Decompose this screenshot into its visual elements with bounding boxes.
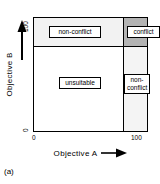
label-non-conflict-right-line1: non- — [130, 76, 143, 83]
plot-area: non-conflict conflict unsuitable non- co… — [33, 17, 148, 132]
arrow-right-icon — [101, 144, 127, 162]
y-axis-tick-max: 100 — [22, 21, 29, 32]
y-axis-title-container: Objective B — [2, 17, 16, 132]
label-box-unsuitable: unsuitable — [59, 77, 101, 89]
horizontal-divider-line — [34, 46, 147, 47]
label-box-non-conflict-right: non- conflict — [124, 74, 150, 94]
y-axis-title: Objective B — [5, 52, 14, 96]
label-non-conflict-right-line2: conflict — [127, 84, 147, 91]
x-axis-title: Objective A — [54, 149, 98, 158]
x-axis-tick-max: 100 — [131, 134, 142, 141]
x-axis-title-container: Objective A — [33, 146, 148, 160]
y-axis-tick-min: 0 — [22, 128, 29, 132]
label-box-non-conflict-top: non-conflict — [49, 26, 101, 38]
region-unsuitable — [34, 46, 123, 131]
x-axis-tick-min: 0 — [32, 134, 36, 141]
objective-conflict-diagram: Objective B 100 0 non-conflict conflict … — [0, 0, 160, 184]
label-box-conflict: conflict — [127, 26, 160, 38]
figure-caption: (a) — [4, 167, 14, 176]
